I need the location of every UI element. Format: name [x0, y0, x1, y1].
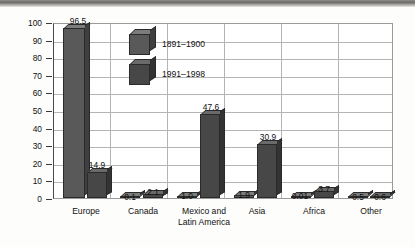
- legend-label-1891-1900: 1891–1900: [162, 39, 205, 50]
- bar-face: [87, 172, 107, 198]
- bar-mexico-1991-1998: [200, 114, 220, 198]
- gridline-80: [54, 59, 392, 60]
- bar-label-europe-1891-1900: 96.5: [60, 16, 96, 26]
- bar-label-other-1991-1998: 0.6: [363, 192, 397, 202]
- y-tick-label-30: 30: [16, 140, 42, 152]
- legend-swatch-side: [150, 56, 156, 81]
- y-tick-label-80: 80: [16, 52, 42, 64]
- bar-label-asia-1891-1900: 1.9: [227, 190, 261, 200]
- y-tick-label-90: 90: [16, 35, 42, 47]
- y-tick-label-0: 0: [16, 193, 42, 205]
- y-tick-mark-20: [46, 164, 52, 165]
- bar-label-mexico-1891-1900: 1.0: [170, 191, 204, 201]
- y-tick-label-70: 70: [16, 70, 42, 82]
- gridline-90: [54, 42, 392, 43]
- bar-label-asia-1991-1998: 30.9: [250, 132, 286, 142]
- y-tick-mark-100: [46, 23, 52, 24]
- chart-page: Percentage of Total Immigration 100 90 8…: [0, 0, 415, 247]
- bar-label-africa-1991-1998: 3.7: [307, 184, 341, 194]
- legend-label-1991-1998: 1991–1998: [162, 69, 205, 80]
- bar-europe-1891-1900: [63, 28, 85, 198]
- y-tick-label-20: 20: [16, 158, 42, 170]
- category-label-asia: Asia: [227, 206, 287, 217]
- bar-face: [63, 28, 85, 198]
- y-tick-mark-50: [46, 111, 52, 112]
- category-label-europe: Europe: [56, 206, 116, 217]
- y-tick-mark-10: [46, 181, 52, 182]
- legend-swatch-face: [129, 34, 150, 55]
- category-label-other: Other: [341, 206, 401, 217]
- legend-swatch-1991-1998: [129, 64, 150, 85]
- y-tick-label-40: 40: [16, 123, 42, 135]
- y-tick-mark-60: [46, 93, 52, 94]
- bar-label-canada-1991-1998: 2.1: [136, 187, 170, 197]
- bar-europe-1991-1998: [87, 172, 107, 198]
- gridline-60: [54, 94, 392, 95]
- category-label-canada: Canada: [113, 206, 173, 217]
- category-separator-5: [338, 24, 339, 198]
- category-label-africa: Africa: [284, 206, 344, 217]
- bar-side: [277, 137, 282, 195]
- y-tick-mark-90: [46, 41, 52, 42]
- y-tick-mark-80: [46, 58, 52, 59]
- y-tick-label-60: 60: [16, 87, 42, 99]
- bar-label-mexico-1991-1998: 47.6: [193, 102, 229, 112]
- legend-swatch-face: [129, 64, 150, 85]
- bar-asia-1991-1998: [257, 144, 277, 198]
- plot-area: 96.5 14.9 0.1 2.1 1.0: [53, 23, 393, 199]
- y-tick-mark-30: [46, 146, 52, 147]
- y-tick-mark-70: [46, 76, 52, 77]
- gridline-70: [54, 77, 392, 78]
- bar-side: [107, 166, 112, 195]
- bar-face: [200, 114, 220, 198]
- y-tick-label-50: 50: [16, 105, 42, 117]
- category-separator-2: [167, 24, 168, 198]
- legend-swatch-1891-1900: [129, 34, 150, 55]
- bar-label-europe-1991-1998: 14.9: [80, 160, 114, 170]
- bar-side: [220, 108, 225, 195]
- y-tick-label-100: 100: [16, 17, 42, 29]
- bar-face: [257, 144, 277, 198]
- legend-swatch-side: [150, 26, 156, 51]
- y-tick-mark-40: [46, 129, 52, 130]
- y-tick-label-10: 10: [16, 175, 42, 187]
- y-tick-mark-0: [46, 199, 52, 200]
- scanned-page-edge: [0, 0, 415, 7]
